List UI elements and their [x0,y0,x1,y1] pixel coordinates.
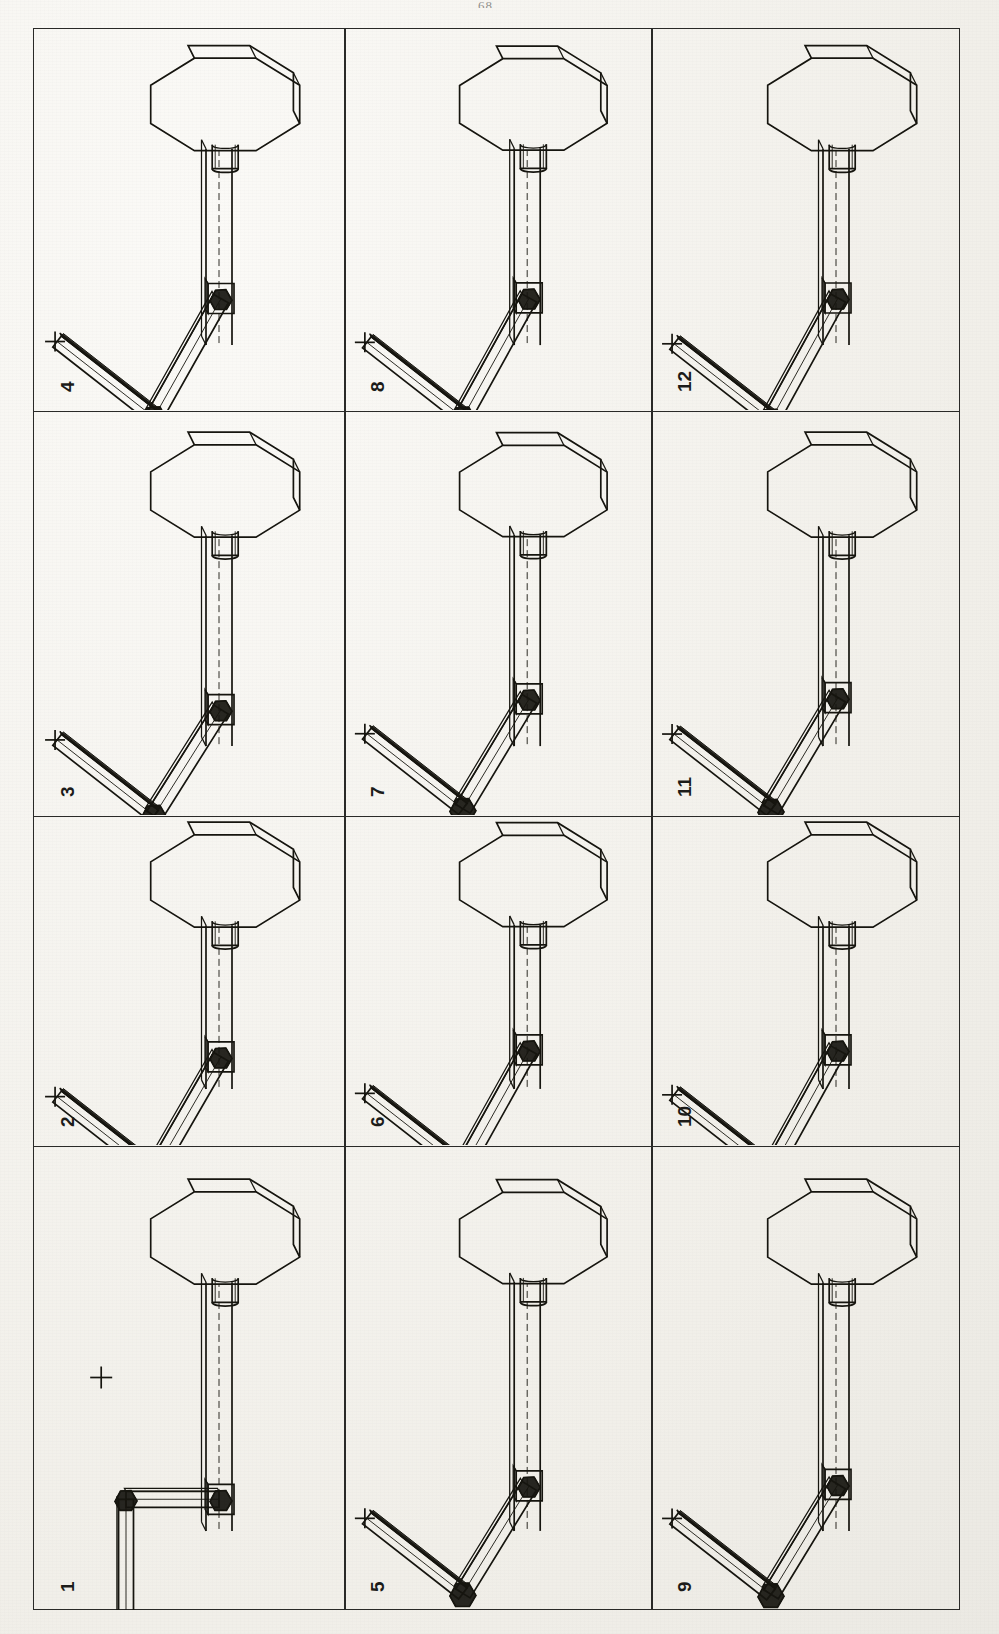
robot-arm-drawing [33,1145,343,1610]
panel-number-label: 5 [367,1581,389,1592]
figure-panel-5: 5 [343,1145,650,1610]
panel-number-label: 3 [57,786,79,797]
robot-arm-drawing [650,1145,960,1610]
figure-panel-6: 6 [343,815,650,1145]
figure-panel-10: 10 [650,815,960,1145]
figure-panel-12: 12 [650,28,960,410]
robot-arm-drawing [33,815,343,1145]
robot-arm-drawing [650,410,960,815]
panel-number-label: 8 [367,381,389,392]
figure-panel-7: 7 [343,410,650,815]
robot-arm-drawing [33,410,343,815]
panel-number-label: 10 [674,1106,696,1127]
robot-arm-drawing [343,1145,650,1610]
panel-number-label: 4 [57,381,79,392]
robot-arm-drawing [343,815,650,1145]
figure-panel-1: 1 [33,1145,343,1610]
panel-number-label: 11 [674,777,696,797]
page-number-mark: 68 [478,0,518,8]
robot-arm-drawing [650,815,960,1145]
robot-arm-drawing [33,28,343,410]
figure-panel-9: 9 [650,1145,960,1610]
figure-panel-8: 8 [343,28,650,410]
panel-number-label: 7 [367,786,389,797]
panel-number-label: 6 [367,1116,389,1127]
figure-panel-2: 2 [33,815,343,1145]
figure-panel-4: 4 [33,28,343,410]
robot-arm-drawing [343,410,650,815]
figure-panel-11: 11 [650,410,960,815]
figure-panel-3: 3 [33,410,343,815]
robot-arm-drawing [343,28,650,410]
panel-number-label: 1 [57,1581,79,1592]
robot-arm-drawing [650,28,960,410]
panel-number-label: 2 [57,1116,79,1127]
panel-number-label: 12 [674,371,696,392]
scanned-page: 68 481237112610159 [0,0,999,1634]
panel-number-label: 9 [674,1581,696,1592]
